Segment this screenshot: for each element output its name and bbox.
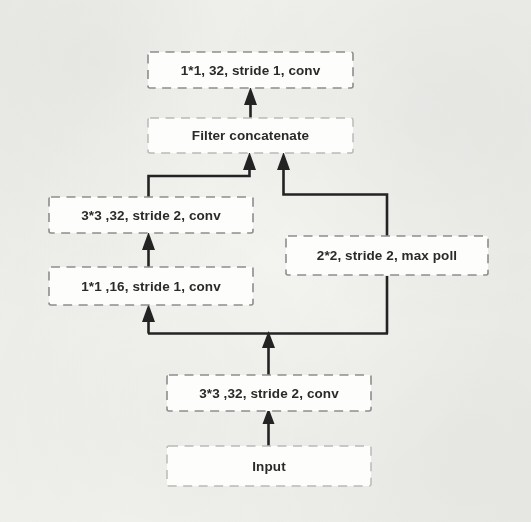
node-left-conv-1x1-label: 1*1 ,16, stride 1, conv xyxy=(81,279,221,294)
node-right-maxpool-label: 2*2, stride 2, max poll xyxy=(317,248,457,263)
node-right-maxpool[interactable]: 2*2, stride 2, max poll xyxy=(286,236,488,275)
node-stem-conv-3x3[interactable]: 3*3 ,32, stride 2, conv xyxy=(167,375,371,411)
node-left-conv-1x1[interactable]: 1*1 ,16, stride 1, conv xyxy=(49,267,253,305)
edge-left-3x3-to-concat xyxy=(149,152,257,197)
network-architecture-diagram: 1*1, 32, stride 1, conv Filter concatena… xyxy=(0,0,531,522)
node-input-label: Input xyxy=(252,459,286,474)
node-input[interactable]: Input xyxy=(167,446,371,486)
edge-stem-to-split-bus xyxy=(262,331,275,375)
node-top-conv[interactable]: 1*1, 32, stride 1, conv xyxy=(148,52,353,88)
node-stem-conv-3x3-label: 3*3 ,32, stride 2, conv xyxy=(199,386,339,401)
node-top-conv-label: 1*1, 32, stride 1, conv xyxy=(181,63,321,78)
diagram-canvas: 1*1, 32, stride 1, conv Filter concatena… xyxy=(0,0,531,522)
node-left-conv-3x3-label: 3*3 ,32, stride 2, conv xyxy=(81,208,221,223)
node-filter-concatenate-label: Filter concatenate xyxy=(192,128,310,143)
node-filter-concatenate[interactable]: Filter concatenate xyxy=(148,118,353,153)
edge-maxpool-to-concat xyxy=(277,152,387,236)
edge-left-1x1-to-3x3 xyxy=(142,232,155,267)
edge-split-to-left-1x1 xyxy=(142,304,155,334)
edge-input-to-stem xyxy=(263,408,275,446)
node-left-conv-3x3[interactable]: 3*3 ,32, stride 2, conv xyxy=(49,197,253,233)
edge-concat-to-top-conv xyxy=(244,87,257,118)
